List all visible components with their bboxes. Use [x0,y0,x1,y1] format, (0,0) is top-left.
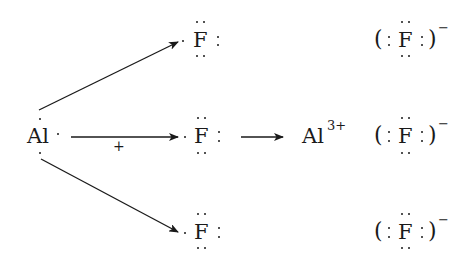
arrow-to-top-fluorine [39,42,178,110]
electron-transfer-label: + [113,139,125,153]
arrows-layer [0,0,466,261]
open-bracket: ( [374,220,383,242]
aluminum-ion-charge: 3+ [327,119,346,132]
fluoride-symbol: F [398,126,413,147]
fluorine-symbol: F [193,30,208,51]
lewis-diagram: Al + F F F Al 3+ ( [0,0,466,261]
close-bracket: ) [428,124,437,146]
fluoride-symbol: F [398,222,413,243]
aluminum-ion-symbol: Al [302,126,324,147]
close-bracket: ) [428,220,437,242]
open-bracket: ( [374,124,383,146]
fluoride-symbol: F [398,30,413,51]
fluorine-symbol: F [194,126,209,147]
open-bracket: ( [374,28,383,50]
fluoride-charge: − [438,117,449,130]
fluorine-symbol: F [194,222,209,243]
aluminum-symbol: Al [27,126,49,147]
close-bracket: ) [428,28,437,50]
fluoride-charge: − [438,21,449,34]
fluoride-charge: − [438,213,449,226]
arrow-to-bottom-fluorine [41,159,178,232]
